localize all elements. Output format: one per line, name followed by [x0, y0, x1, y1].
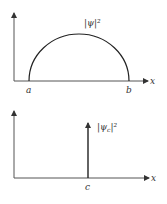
probability-density-semicircle	[29, 34, 129, 81]
bottom-plot: x c |ψc|²	[14, 111, 156, 192]
marker-b: b	[126, 85, 132, 95]
top-x-axis-label: x	[150, 76, 155, 86]
diagram-canvas: x a b |ψ|² x c |ψc|²	[0, 0, 167, 204]
psi-squared-label: |ψ|²	[84, 18, 101, 29]
top-plot: x a b |ψ|²	[14, 13, 155, 95]
marker-c: c	[85, 182, 90, 192]
bottom-x-axis-label: x	[151, 173, 156, 183]
psi-c-squared-label: |ψc|²	[97, 122, 118, 133]
marker-a: a	[26, 85, 31, 95]
